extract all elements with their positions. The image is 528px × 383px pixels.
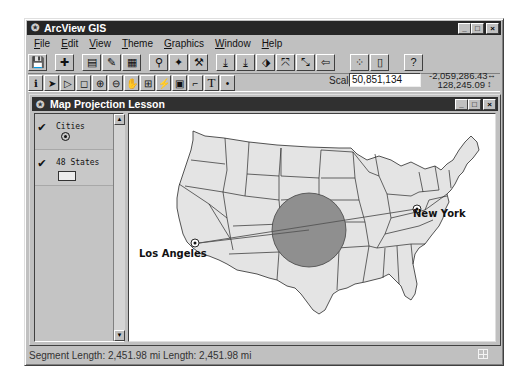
map-display[interactable]: Los Angeles New York [128,113,496,342]
zoom-full-extent-button[interactable]: ⤓ [216,54,235,71]
vertex-edit-icon: ▷ [64,78,72,89]
zoom-previous-button[interactable]: ⇦ [316,54,335,71]
menu-help-rest: elp [269,38,282,49]
info-icon: ℹ [34,78,38,89]
hammer-icon: ⚒ [194,56,204,69]
text-tool[interactable]: T [204,75,219,91]
clear-selected-icon: ▯ [377,56,383,69]
resize-grip-icon[interactable] [478,349,488,359]
coordinate-readout: -2,059,286.43 128,245.09 [429,71,485,89]
ruler-icon: ⊞ [144,78,152,89]
locate-address-button[interactable]: ✦ [169,54,188,71]
clear-selected-button[interactable]: ▯ [370,54,389,71]
minimize-button[interactable]: _ [458,23,471,34]
text-t-icon: T [208,75,216,91]
maximize-button[interactable]: □ [471,23,484,34]
theme-entry-cities[interactable]: ✔ Cities [35,114,123,150]
menu-help[interactable]: Help [257,37,289,51]
zoom-full-extent-icon: ⤓ [223,56,228,69]
city-label-los-angeles: Los Angeles [139,248,207,259]
city-label-new-york: New York [413,208,466,219]
app-titlebar[interactable]: ✪ ArcView GIS _ □ × [27,21,501,35]
hot-link-tool[interactable]: ⚡ [156,75,171,91]
select-feature-icon: ◻ [80,78,88,89]
menu-view[interactable]: View [84,37,117,51]
button-bar: 💾 ✚ ▤ ✎ ▦ ⚲ ✦ ⚒ ⤓ ⤓ ⬗ ⤧ ⤡ ⇦ ⁘ ▯ ? [28,52,500,72]
edit-legend-icon: ✎ [107,56,116,69]
zoom-active-themes-button[interactable]: ⤓ [236,54,255,71]
states-visibility-checkbox[interactable]: ✔ [38,155,46,170]
open-theme-table-button[interactable]: ▦ [122,54,141,71]
view-minimize-button[interactable]: _ [455,99,468,110]
help-button[interactable]: ? [404,54,423,71]
zoom-active-themes-icon: ⤓ [243,56,248,69]
pointer-tool[interactable]: ➤ [44,75,59,91]
view-title: Map Projection Lesson [50,98,455,110]
area-of-interest-icon: ▣ [175,78,184,89]
menu-edit-rest: dit [68,38,79,49]
states-theme-name: 48 States [56,158,99,167]
select-graphic-icon: ⁘ [355,56,364,69]
pan-tool[interactable]: ✋ [124,75,139,91]
label-tool[interactable]: ⌐ [188,75,203,91]
zoom-in-tool[interactable]: ⊕ [92,75,107,91]
zoom-in-button[interactable]: ⤧ [276,54,295,71]
magnifier-plus-icon: ⊕ [96,78,104,89]
zoom-out-tool[interactable]: ⊖ [108,75,123,91]
scale-input[interactable]: 50,851,134 [349,73,421,87]
area-of-interest-tool[interactable]: ▣ [172,75,187,91]
theme-properties-button[interactable]: ▤ [82,54,101,71]
arrows-inward-icon: ⤧ [281,56,290,69]
point-icon: • [226,78,230,89]
menu-graphics[interactable]: Graphics [159,37,210,51]
arcview-globe-icon: ✪ [29,22,41,34]
zoom-out-button[interactable]: ⤡ [296,54,315,71]
zoom-to-selected-icon: ⬗ [262,56,270,69]
edit-legend-button[interactable]: ✎ [102,54,121,71]
locate-address-icon: ✦ [174,56,183,69]
view-globe-icon: ✪ [34,99,46,110]
zoom-to-selected-button[interactable]: ⬗ [256,54,275,71]
toc-scrollbar[interactable]: ▲ ▼ [113,114,125,341]
y-coordinate: 128,245.09 [429,80,485,89]
arrows-outward-icon: ⤡ [301,56,310,69]
help-pointer-icon: ? [410,56,416,68]
add-theme-button[interactable]: ✚ [55,54,74,71]
draw-point-tool[interactable]: • [220,75,235,91]
menu-bar: File Edit View Theme Graphics Window Hel… [29,37,288,51]
magnifier-minus-icon: ⊖ [112,78,120,89]
vertical-arrow-icon: ↕ [487,80,496,89]
menu-file[interactable]: File [29,37,56,51]
arcview-app-window: ✪ ArcView GIS _ □ × File Edit View Theme… [24,18,504,366]
table-of-contents: ✔ Cities ✔ 48 States ▲ ▼ [34,113,124,342]
menu-window-rest: indow [224,38,250,49]
select-by-graphic-button[interactable]: ⁘ [350,54,369,71]
theme-properties-icon: ▤ [87,56,97,69]
coordinate-arrows: ↔ ↕ [487,71,496,89]
find-button[interactable]: ⚲ [149,54,168,71]
map-svg: Los Angeles New York [129,114,495,341]
close-button[interactable]: × [486,23,499,34]
theme-entry-48-states[interactable]: ✔ 48 States [35,150,123,186]
menu-view-rest: iew [96,38,111,49]
save-project-button[interactable]: 💾 [28,54,47,71]
scroll-down-button[interactable]: ▼ [114,330,125,341]
scroll-up-button[interactable]: ▲ [114,114,125,125]
vertex-edit-tool[interactable]: ▷ [60,75,75,91]
add-theme-icon: ✚ [60,56,69,69]
cities-visibility-checkbox[interactable]: ✔ [38,119,46,134]
menu-edit[interactable]: Edit [56,37,84,51]
query-builder-button[interactable]: ⚒ [189,54,208,71]
select-feature-tool[interactable]: ◻ [76,75,91,91]
view-window: ✪ Map Projection Lesson _ □ × ✔ Cities ✔… [29,94,501,346]
identify-tool[interactable]: ℹ [28,75,43,91]
pointer-arrow-icon: ➤ [48,78,56,89]
view-titlebar[interactable]: ✪ Map Projection Lesson _ □ × [32,97,498,111]
measure-tool[interactable]: ⊞ [140,75,155,91]
view-maximize-button[interactable]: □ [468,99,481,110]
app-title: ArcView GIS [44,22,458,34]
back-arrow-icon: ⇦ [321,56,330,69]
menu-window[interactable]: Window [210,37,257,51]
view-close-button[interactable]: × [483,99,496,110]
menu-theme[interactable]: Theme [117,37,159,51]
